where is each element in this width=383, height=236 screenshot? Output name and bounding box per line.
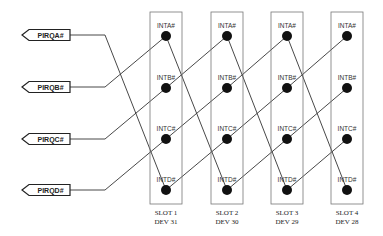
pin-dot-slot4-inta <box>342 31 352 41</box>
slot-label: SLOT 2 <box>216 209 239 217</box>
pin-label: INTC# <box>338 125 357 132</box>
pin-dots-layer: INTA#INTB#INTC#INTD#INTA#INTB#INTC#INTD#… <box>157 22 357 195</box>
pin-label: INTD# <box>338 176 357 183</box>
pirq-label: PIRQC# <box>37 136 63 144</box>
pirq-routing-diagram: SLOT 1DEV 31SLOT 2DEV 30SLOT 3DEV 29SLOT… <box>0 0 383 236</box>
slot-label: SLOT 1 <box>155 209 178 217</box>
slot-label: SLOT 4 <box>336 209 359 217</box>
pin-label: INTD# <box>157 176 176 183</box>
pin-label: INTC# <box>157 125 176 132</box>
pin-dot-slot2-intd <box>222 185 232 195</box>
wire-pirqa-to-slot1 <box>70 35 166 190</box>
slot-boxes-layer: SLOT 1DEV 31SLOT 2DEV 30SLOT 3DEV 29SLOT… <box>150 12 363 226</box>
dev-label: DEV 30 <box>215 218 239 226</box>
wire-pirqb-to-slot1 <box>70 36 166 87</box>
wires-layer <box>70 35 347 190</box>
pin-dot-slot2-intc <box>222 134 232 144</box>
dev-label: DEV 29 <box>275 218 299 226</box>
pin-label: INTA# <box>338 22 356 29</box>
pin-label: INTA# <box>218 22 236 29</box>
pin-dot-slot4-intd <box>342 185 352 195</box>
pin-label: INTD# <box>218 176 237 183</box>
pin-dot-slot3-inta <box>282 31 292 41</box>
pin-dot-slot4-intc <box>342 134 352 144</box>
pin-dot-slot1-inta <box>161 31 171 41</box>
pin-label: INTB# <box>218 74 237 81</box>
wire-pirqc-to-slot1 <box>70 88 166 139</box>
dev-label: DEV 31 <box>154 218 178 226</box>
pin-label: INTB# <box>338 74 357 81</box>
wire-pirqd-to-slot1 <box>70 139 166 190</box>
pin-dot-slot1-intb <box>161 83 171 93</box>
pin-label: INTC# <box>218 125 237 132</box>
pin-label: INTB# <box>157 74 176 81</box>
pin-label: INTC# <box>278 125 297 132</box>
pin-dot-slot1-intd <box>161 185 171 195</box>
pin-dot-slot2-intb <box>222 83 232 93</box>
pin-dot-slot3-intd <box>282 185 292 195</box>
pin-label: INTA# <box>278 22 296 29</box>
pin-dot-slot3-intc <box>282 134 292 144</box>
pirq-tags-layer: PIRQA#PIRQB#PIRQC#PIRQD# <box>22 30 70 196</box>
pin-label: INTB# <box>278 74 297 81</box>
pin-dot-slot4-intb <box>342 83 352 93</box>
slot-label: SLOT 3 <box>276 209 299 217</box>
pirq-label: PIRQD# <box>37 187 63 195</box>
pin-dot-slot2-inta <box>222 31 232 41</box>
pin-label: INTA# <box>157 22 175 29</box>
pin-label: INTD# <box>278 176 297 183</box>
pin-dot-slot1-intc <box>161 134 171 144</box>
pin-dot-slot3-intb <box>282 83 292 93</box>
pirq-label: PIRQB# <box>37 84 63 92</box>
pirq-label: PIRQA# <box>37 32 63 40</box>
dev-label: DEV 28 <box>335 218 359 226</box>
